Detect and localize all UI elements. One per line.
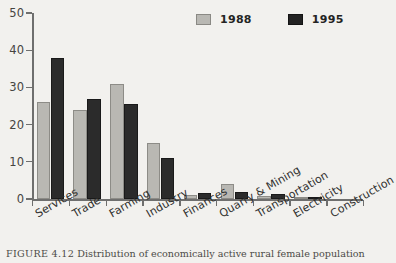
caption-text: Distribution of economically active rura… (77, 248, 365, 259)
legend-swatch-icon-1988 (196, 14, 211, 25)
legend-swatch-icon-1995 (288, 14, 303, 25)
bar-1995-farming (124, 104, 138, 199)
y-axis-tick-label: 50 (0, 6, 24, 20)
legend: 1988 1995 (196, 13, 344, 26)
figure-number: FIGURE 4.12 (6, 248, 74, 259)
legend-item-1988[interactable]: 1988 (196, 13, 252, 26)
legend-item-1995[interactable]: 1995 (288, 13, 344, 26)
bar-1995-trade (87, 99, 101, 199)
figure-caption: FIGURE 4.12 Distribution of economically… (6, 248, 372, 259)
legend-label-1995: 1995 (312, 13, 344, 26)
bar-1988-trade (73, 110, 87, 199)
y-axis-tick-label: 40 (0, 43, 24, 57)
bar-1988-farming (110, 84, 124, 199)
bar-1995-services (51, 58, 65, 199)
y-axis-tick-label: 10 (0, 155, 24, 169)
bar-1988-industry (147, 143, 161, 199)
y-axis-tick-label: 20 (0, 118, 24, 132)
y-axis-tick-label: 30 (0, 80, 24, 94)
bar-1988-services (37, 102, 51, 199)
legend-label-1988: 1988 (220, 13, 252, 26)
bars-layer (32, 13, 363, 199)
